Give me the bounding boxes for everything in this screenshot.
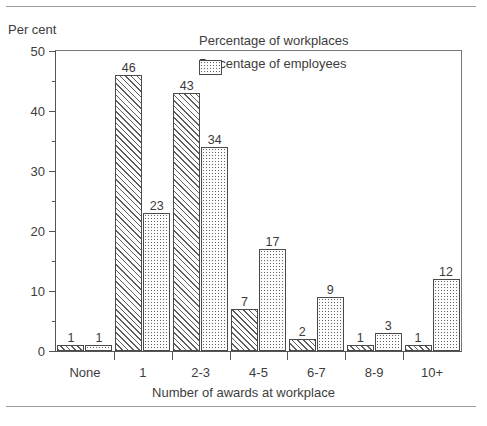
- bar-value-label: 43: [180, 80, 194, 93]
- y-axis-tick-major: [49, 111, 56, 112]
- legend-item: Percentage of employees: [199, 52, 349, 75]
- bar: 1: [347, 345, 374, 351]
- y-axis-tick-major: [49, 51, 56, 52]
- x-axis-tick: [172, 351, 173, 360]
- plot-area: 11462343347172913112 01020304050None12-3…: [55, 50, 462, 352]
- bar: 1: [405, 345, 432, 351]
- bar-value-label: 34: [208, 134, 222, 147]
- top-rule: [6, 6, 476, 7]
- y-axis-tick-major: [49, 171, 56, 172]
- bar-value-label: 3: [385, 320, 392, 333]
- x-axis-tick: [114, 351, 115, 360]
- bar: 17: [259, 249, 286, 351]
- x-axis-tick-label: 2-3: [191, 365, 210, 380]
- bar: 43: [173, 93, 200, 351]
- bar-value-label: 46: [122, 62, 136, 75]
- y-axis-tick-label: 30: [31, 165, 45, 178]
- y-axis-tick-label: 10: [31, 285, 45, 298]
- bar-value-label: 2: [299, 326, 306, 339]
- y-axis-tick-label: 0: [38, 345, 45, 358]
- bar-value-label: 9: [327, 284, 334, 297]
- x-axis-tick-label: 10+: [421, 365, 443, 380]
- y-axis-tick-label: 50: [31, 45, 45, 58]
- x-axis-tick: [403, 351, 404, 360]
- y-axis-tick-major: [49, 291, 56, 292]
- x-axis-tick-label: 8-9: [365, 365, 384, 380]
- y-axis-tick-minor: [52, 141, 56, 142]
- figure: Per cent 11462343347172913112 0102030405…: [0, 0, 487, 426]
- bar: 1: [85, 345, 112, 351]
- bar: 7: [231, 309, 258, 351]
- y-axis-tick-minor: [52, 81, 56, 82]
- y-axis-tick-minor: [52, 261, 56, 262]
- bar-value-label: 17: [266, 236, 280, 249]
- bar: 23: [143, 213, 170, 351]
- y-axis-tick-minor: [52, 321, 56, 322]
- bar: 9: [317, 297, 344, 351]
- x-axis-tick-label: 6-7: [307, 365, 326, 380]
- legend-item: Percentage of workplaces: [199, 29, 349, 52]
- bar-value-label: 1: [67, 332, 74, 345]
- legend: Percentage of workplaces Percentage of e…: [199, 29, 349, 75]
- bar: 3: [375, 333, 402, 351]
- bar-value-label: 1: [95, 332, 102, 345]
- x-axis-tick: [287, 351, 288, 360]
- bar: 2: [289, 339, 316, 351]
- legend-swatch-employees-icon: [199, 60, 222, 75]
- x-axis-tick-label: 1: [139, 365, 146, 380]
- bar-value-label: 1: [357, 332, 364, 345]
- bars-layer: 11462343347172913112: [56, 51, 461, 351]
- bar: 12: [433, 279, 460, 351]
- bar: 46: [115, 75, 142, 351]
- y-axis-tick-minor: [52, 201, 56, 202]
- bar-value-label: 23: [150, 200, 164, 213]
- bar-value-label: 7: [241, 296, 248, 309]
- bottom-rule: [6, 406, 476, 407]
- y-axis-label: Per cent: [8, 22, 56, 37]
- y-axis-tick-label: 40: [31, 105, 45, 118]
- x-axis-tick: [345, 351, 346, 360]
- x-axis-tick-label: 4-5: [249, 365, 268, 380]
- bar-value-label: 1: [415, 332, 422, 345]
- y-axis-tick-major: [49, 231, 56, 232]
- bar: 34: [201, 147, 228, 351]
- x-axis-tick: [230, 351, 231, 360]
- bar-value-label: 12: [439, 266, 453, 279]
- x-axis-label: Number of awards at workplace: [0, 385, 487, 400]
- y-axis-tick-label: 20: [31, 225, 45, 238]
- x-axis-tick-label: None: [69, 365, 100, 380]
- legend-label-workplaces: Percentage of workplaces: [199, 33, 349, 48]
- y-axis-tick-major: [49, 351, 56, 352]
- bar: 1: [57, 345, 84, 351]
